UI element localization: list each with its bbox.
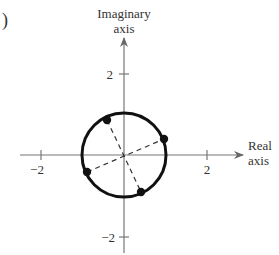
point-upper-left <box>103 116 111 124</box>
tick-label-y-neg2: −2 <box>101 230 115 245</box>
point-lower-left <box>83 168 91 176</box>
point-right <box>160 135 168 143</box>
complex-plane-figure: ) Imaginary axis Real axis −2 2 2 −2 <box>0 0 279 255</box>
panel-label: ) <box>2 10 8 31</box>
imaginary-axis-label-line1: Imaginary <box>97 6 151 21</box>
dashed-radii <box>87 120 164 192</box>
tick-label-y-pos2: 2 <box>107 67 114 82</box>
tick-label-x-neg2: −2 <box>30 162 44 177</box>
point-bottom <box>137 188 145 196</box>
real-axis-label-line2: axis <box>248 153 269 168</box>
imaginary-axis-label-line2: axis <box>114 21 135 36</box>
real-axis-label-line1: Real <box>248 138 272 153</box>
tick-label-x-pos2: 2 <box>204 162 211 177</box>
